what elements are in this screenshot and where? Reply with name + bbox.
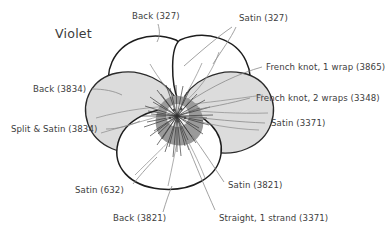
page-title: Violet [55,27,92,41]
label-split-satin-3834: Split & Satin (3834) [11,124,97,134]
violet-stitch-diagram: Violet Back (327) Satin (327) French kno… [0,0,389,236]
label-satin-632: Satin (632) [75,185,124,195]
label-satin-3821: Satin (3821) [228,180,282,190]
label-back-327: Back (327) [132,11,180,21]
label-french-knot-1-wrap: French knot, 1 wrap (3865) [266,62,385,72]
label-satin-3371: Satin (3371) [271,118,325,128]
label-french-knot-2-wraps: French knot, 2 wraps (3348) [256,93,380,103]
label-back-3821: Back (3821) [113,213,166,223]
label-straight-1-strand: Straight, 1 strand (3371) [219,213,328,223]
label-satin-327: Satin (327) [239,13,288,23]
label-back-3834: Back (3834) [33,84,86,94]
